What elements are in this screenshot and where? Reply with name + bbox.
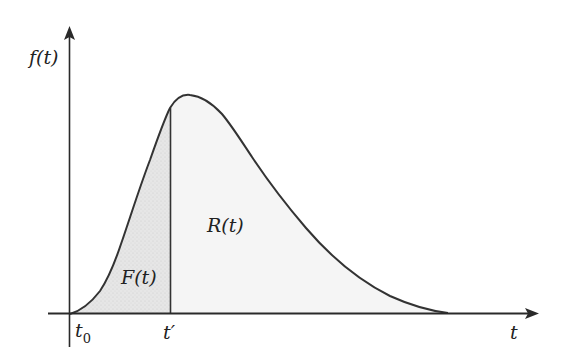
reliability-diagram: f(t) t t0 t′ F(t) R(t) bbox=[0, 0, 566, 362]
y-axis-label: f(t) bbox=[27, 46, 59, 68]
region-f-label: F(t) bbox=[120, 266, 157, 288]
tick-label-t0: t0 bbox=[75, 319, 91, 346]
tick-label-t0-subscript: 0 bbox=[83, 331, 91, 346]
region-r-label: R(t) bbox=[206, 214, 244, 236]
region-r-fill bbox=[170, 95, 448, 313]
x-axis-label: t bbox=[510, 321, 518, 343]
tick-label-t-prime: t′ bbox=[163, 321, 176, 343]
